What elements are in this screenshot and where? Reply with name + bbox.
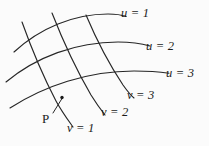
label-u-1: u = 1 xyxy=(121,7,149,20)
point-p-marker xyxy=(60,96,63,99)
label-point-p: P xyxy=(42,112,49,125)
label-u-3: u = 3 xyxy=(166,67,194,80)
curve-v-2 xyxy=(52,13,105,115)
label-u-2: u = 2 xyxy=(146,40,174,53)
label-v-3: v = 3 xyxy=(127,89,154,102)
curve-u-2 xyxy=(6,42,150,82)
curve-v-3 xyxy=(86,15,134,98)
label-v-2: v = 2 xyxy=(101,106,128,119)
figure-curvilinear-grid: u = 1 u = 2 u = 3 v = 3 v = 2 v = 1 P xyxy=(0,0,209,146)
point-leader-line xyxy=(53,99,62,114)
label-v-1: v = 1 xyxy=(67,122,94,135)
